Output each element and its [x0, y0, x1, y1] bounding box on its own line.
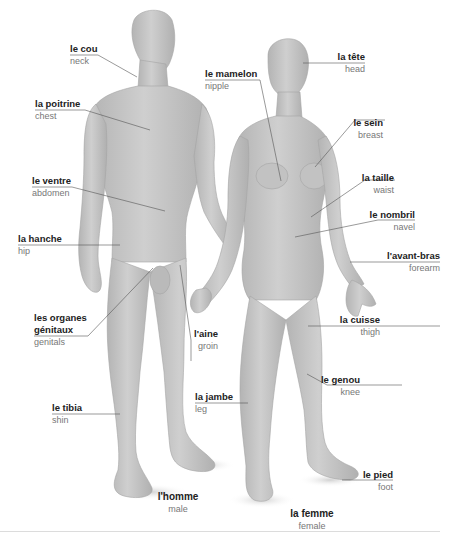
caption-male: l'homme male	[146, 491, 210, 515]
label-fr: le nombril	[370, 209, 415, 221]
label-forearm: l'avant-bras forearm	[387, 250, 440, 274]
label-en: groin	[192, 340, 218, 352]
label-fr: le genou	[321, 374, 360, 386]
label-fr: le sein	[353, 117, 383, 129]
label-shin: le tibia shin	[52, 402, 82, 426]
label-head: la tête head	[338, 51, 365, 75]
label-fr: la jambe	[195, 391, 233, 403]
label-fr: la poitrine	[35, 98, 80, 110]
label-fr: la tête	[338, 51, 365, 63]
caption-female: la femme female	[280, 508, 344, 532]
label-fr-line1: les organes	[34, 312, 87, 324]
label-en: navel	[370, 221, 415, 233]
label-abdomen: le ventre abdomen	[32, 175, 71, 199]
label-waist: la taille waist	[362, 172, 394, 196]
caption-en: male	[146, 503, 210, 515]
label-en: nipple	[205, 80, 257, 92]
label-hip: la hanche hip	[18, 233, 62, 257]
label-en: neck	[70, 55, 97, 67]
caption-fr: l'homme	[146, 491, 210, 503]
label-en: thigh	[340, 326, 380, 338]
label-fr: le ventre	[32, 175, 71, 187]
label-en: foot	[363, 481, 393, 493]
label-navel: le nombril navel	[370, 209, 415, 233]
label-en: shin	[52, 414, 82, 426]
label-en: genitals	[34, 336, 87, 348]
label-genitals: les organes génitaux genitals	[34, 312, 87, 348]
label-knee: le genou knee	[321, 374, 360, 398]
label-fr: le cou	[70, 43, 97, 55]
label-fr: le tibia	[52, 402, 82, 414]
label-thigh: la cuisse thigh	[340, 314, 380, 338]
label-fr: la taille	[362, 172, 394, 184]
label-en: leg	[195, 403, 233, 415]
caption-fr: la femme	[280, 508, 344, 520]
label-en: hip	[18, 245, 62, 257]
bottom-divider	[0, 531, 440, 532]
label-groin: l'aine groin	[192, 328, 218, 352]
label-nipple: le mamelon nipple	[205, 68, 257, 92]
label-fr: l'aine	[192, 328, 218, 340]
label-fr: la hanche	[18, 233, 62, 245]
label-en: chest	[35, 110, 80, 122]
label-foot: le pied foot	[363, 469, 393, 493]
label-leg: la jambe leg	[195, 391, 233, 415]
label-fr-line2: génitaux	[34, 324, 87, 336]
label-en: forearm	[387, 262, 440, 274]
label-neck: le cou neck	[70, 43, 97, 67]
label-chest: la poitrine chest	[35, 98, 80, 122]
label-en: breast	[353, 129, 383, 141]
female-figure	[190, 39, 376, 508]
label-fr: la cuisse	[340, 314, 380, 326]
label-en: knee	[321, 386, 360, 398]
label-fr: le pied	[363, 469, 393, 481]
label-en: head	[338, 63, 365, 75]
label-fr: le mamelon	[205, 68, 257, 80]
label-en: waist	[362, 184, 394, 196]
label-fr: l'avant-bras	[387, 250, 440, 262]
label-breast: le sein breast	[353, 117, 383, 141]
label-en: abdomen	[32, 187, 71, 199]
